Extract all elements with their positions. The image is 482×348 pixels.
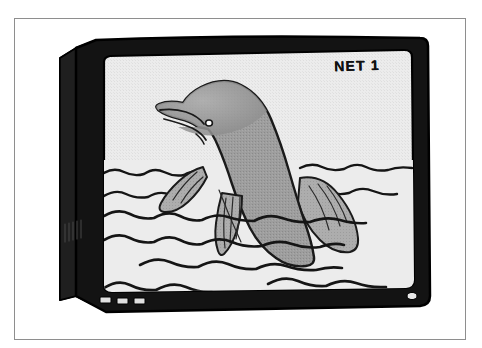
tv-control-buttons[interactable] — [100, 297, 145, 304]
tv-button-2[interactable] — [117, 298, 128, 304]
illustration-page: NET 1 — [0, 0, 482, 348]
tv-screen — [100, 50, 420, 300]
dolphin-eye — [206, 120, 213, 126]
tv-button-3[interactable] — [134, 298, 145, 304]
television-illustration — [0, 0, 482, 348]
power-indicator[interactable] — [407, 292, 417, 299]
screen-channel-label: NET 1 — [334, 57, 380, 74]
tv-button-1[interactable] — [100, 297, 111, 303]
television-stage: NET 1 — [0, 0, 482, 348]
